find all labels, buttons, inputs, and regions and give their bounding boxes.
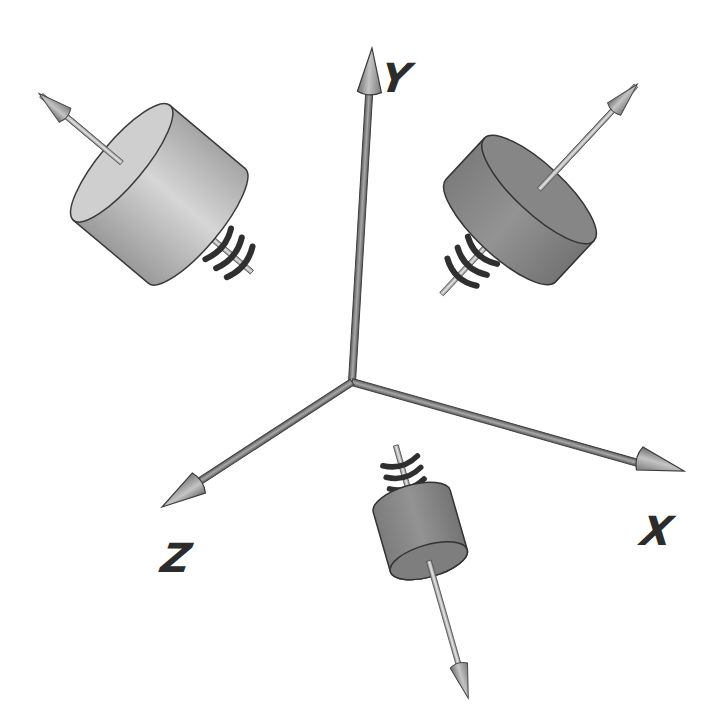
force-vector-arrow-icon — [33, 87, 127, 170]
coordinate-diagram: Y X Z — [0, 0, 725, 709]
force-vector-arrow-icon — [420, 558, 477, 700]
cylinder-dark — [369, 475, 472, 587]
x-axis-label: X — [634, 508, 678, 555]
component-upper-left — [0, 36, 300, 330]
y-axis-label: Y — [377, 55, 418, 102]
z-axis: Z — [155, 379, 354, 582]
component-bottom — [357, 434, 506, 709]
x-axis-arrowhead-icon — [634, 446, 688, 482]
cylinder-light — [57, 91, 262, 297]
y-axis: Y — [349, 47, 418, 382]
z-axis-label: Z — [155, 535, 195, 582]
force-vector-arrow-icon — [533, 78, 644, 196]
component-upper-right — [387, 33, 692, 345]
